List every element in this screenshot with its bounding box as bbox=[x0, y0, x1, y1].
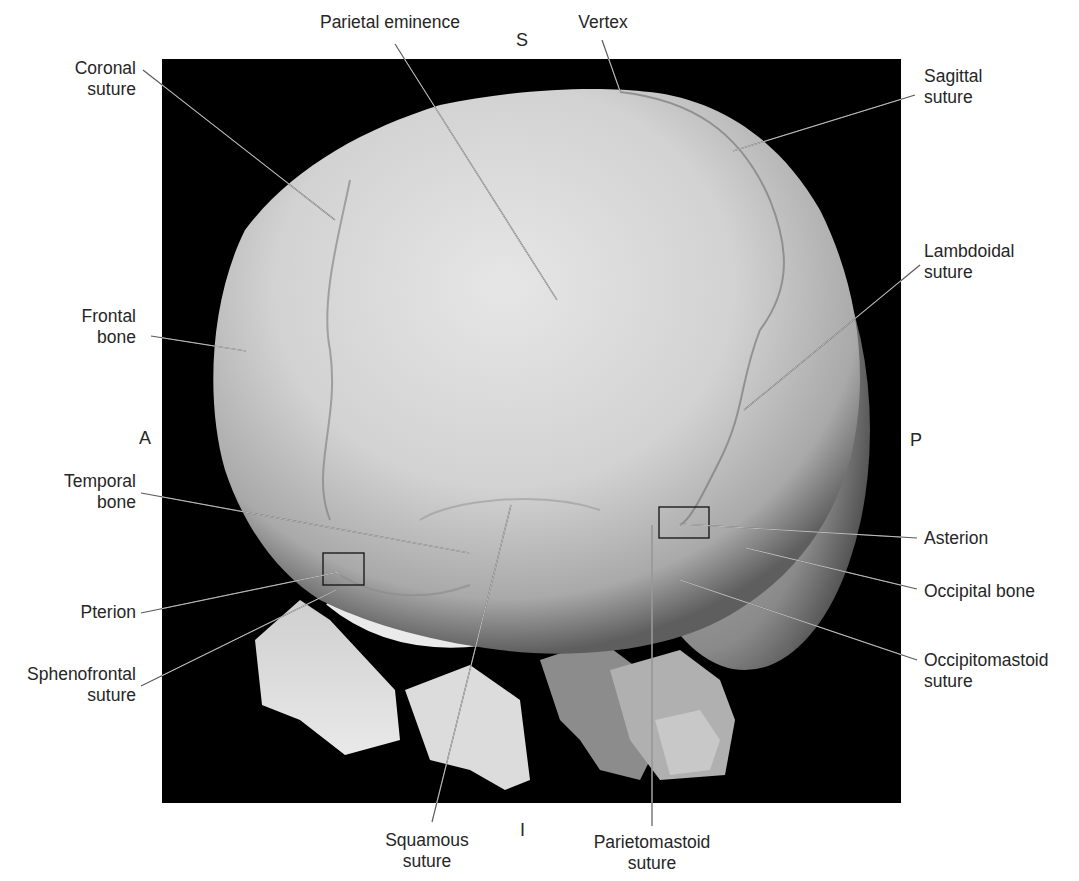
label-line: Asterion bbox=[924, 528, 1034, 549]
label-parietal-eminence: Parietal eminence bbox=[305, 12, 475, 33]
cranium bbox=[213, 89, 860, 654]
label-asterion: Asterion bbox=[924, 528, 1034, 549]
label-vertex: Vertex bbox=[567, 12, 639, 33]
label-temporal-bone: Temporal bone bbox=[40, 471, 136, 513]
label-line: suture bbox=[58, 79, 136, 100]
orientation-anterior: A bbox=[139, 428, 151, 449]
skull-figure: S I A P Coronal suture Parietal eminence… bbox=[0, 0, 1079, 881]
label-line: bone bbox=[60, 327, 136, 348]
label-line: Vertex bbox=[567, 12, 639, 33]
label-parietomastoid-suture: Parietomastoid suture bbox=[576, 832, 728, 874]
label-line: Temporal bbox=[40, 471, 136, 492]
label-line: Occipital bone bbox=[924, 581, 1074, 602]
label-pterion: Pterion bbox=[50, 602, 136, 623]
label-occipitomastoid-suture: Occipitomastoid suture bbox=[924, 650, 1079, 692]
label-line: Frontal bbox=[60, 306, 136, 327]
label-line: Parietomastoid bbox=[576, 832, 728, 853]
orientation-superior: S bbox=[516, 30, 528, 51]
label-lambdoidal-suture: Lambdoidal suture bbox=[924, 241, 1054, 283]
orientation-posterior: P bbox=[910, 430, 922, 451]
label-squamous-suture: Squamous suture bbox=[375, 830, 479, 872]
label-line: Pterion bbox=[50, 602, 136, 623]
label-line: Squamous bbox=[375, 830, 479, 851]
label-frontal-bone: Frontal bone bbox=[60, 306, 136, 348]
label-sagittal-suture: Sagittal suture bbox=[924, 66, 1034, 108]
label-line: suture bbox=[375, 851, 479, 872]
label-line: bone bbox=[40, 492, 136, 513]
label-line: suture bbox=[924, 262, 1054, 283]
label-sphenofrontal-suture: Sphenofrontal suture bbox=[4, 664, 136, 706]
label-line: Sagittal bbox=[924, 66, 1034, 87]
label-line: Sphenofrontal bbox=[4, 664, 136, 685]
orientation-inferior: I bbox=[520, 820, 525, 841]
label-line: suture bbox=[576, 853, 728, 874]
label-line: Parietal eminence bbox=[305, 12, 475, 33]
label-coronal-suture: Coronal suture bbox=[58, 58, 136, 100]
label-line: Occipitomastoid bbox=[924, 650, 1079, 671]
label-line: suture bbox=[924, 671, 1079, 692]
label-line: suture bbox=[4, 685, 136, 706]
label-line: suture bbox=[924, 87, 1034, 108]
label-line: Lambdoidal bbox=[924, 241, 1054, 262]
label-line: Coronal bbox=[58, 58, 136, 79]
label-occipital-bone: Occipital bone bbox=[924, 581, 1074, 602]
